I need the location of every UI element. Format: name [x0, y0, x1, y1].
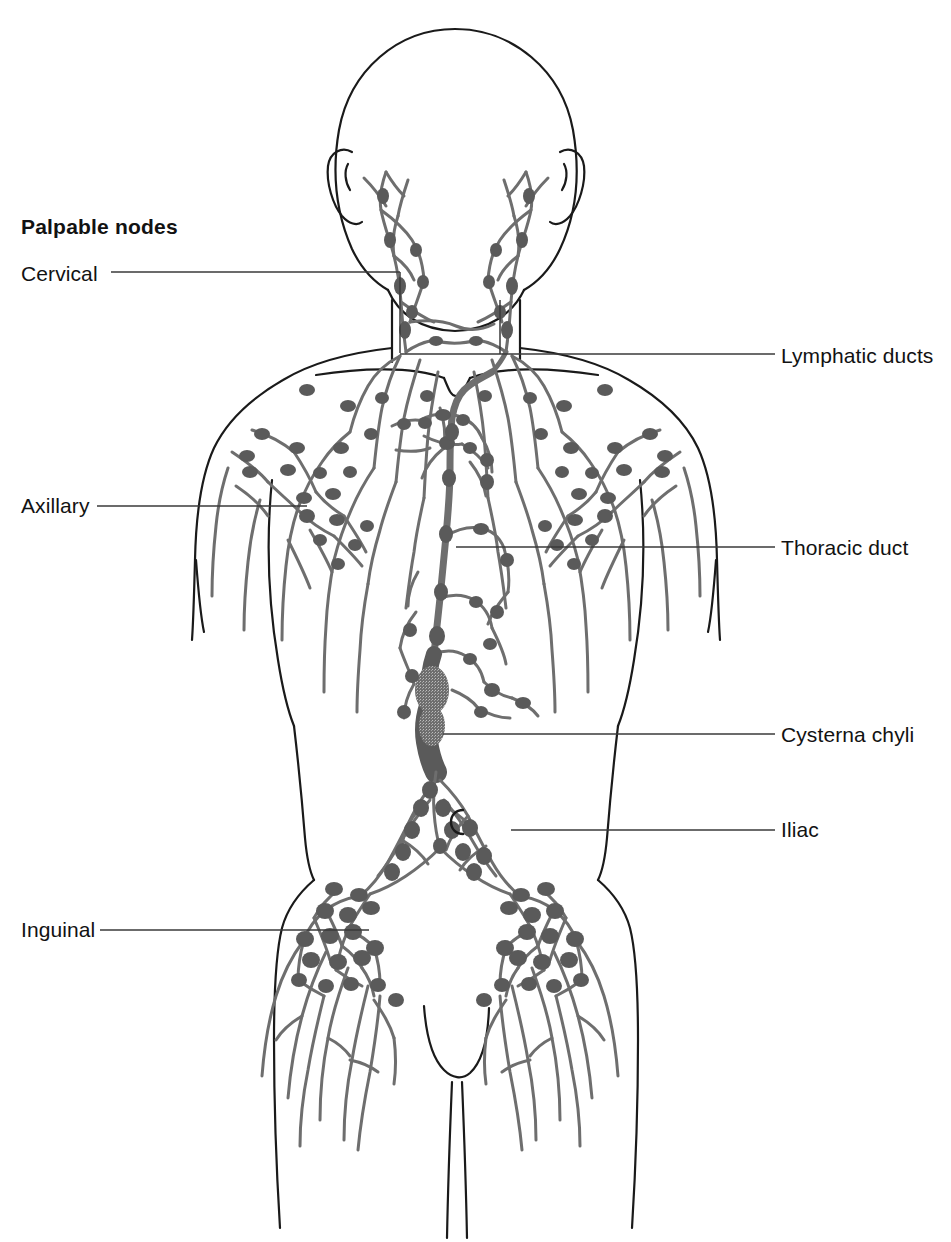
lymph-nodes	[239, 188, 673, 1007]
label-thoracic-duct: Thoracic duct	[781, 536, 908, 560]
body-outline	[192, 29, 720, 1238]
label-cervical: Cervical	[21, 262, 98, 286]
label-axillary: Axillary	[21, 494, 89, 518]
label-inguinal: Inguinal	[21, 918, 95, 942]
label-lymphatic-ducts: Lymphatic ducts	[781, 344, 933, 368]
label-iliac: Iliac	[781, 818, 819, 842]
lymphatic-vessels	[212, 172, 700, 1150]
lymphatic-system-illustration	[0, 0, 951, 1242]
figure-canvas: Palpable nodes Cervical Axillary Inguina…	[0, 0, 951, 1242]
palpable-nodes-heading: Palpable nodes	[21, 215, 178, 239]
label-cysterna-chyli: Cysterna chyli	[781, 723, 914, 747]
